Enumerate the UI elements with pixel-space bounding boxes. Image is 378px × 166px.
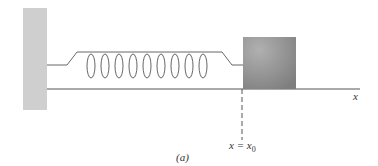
position-label: x = x0 xyxy=(228,139,256,154)
wall xyxy=(23,8,47,110)
spring-mass-diagram: x x = x0 (a) xyxy=(0,0,378,166)
axis-label: x xyxy=(352,90,358,102)
spring xyxy=(47,52,243,78)
figure-caption: (a) xyxy=(176,151,189,164)
mass-block xyxy=(243,37,296,89)
